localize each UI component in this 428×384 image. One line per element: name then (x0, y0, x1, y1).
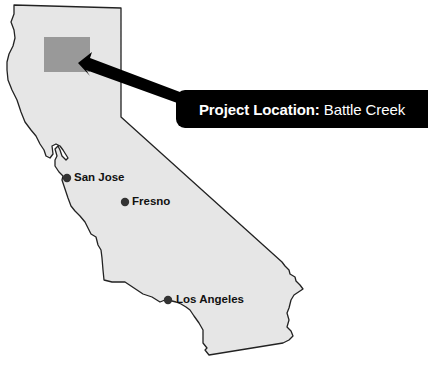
project-location-callout: Project Location: Battle Creek (176, 90, 428, 128)
callout-value: Battle Creek (324, 101, 405, 118)
city-label-fresno: Fresno (132, 195, 170, 207)
city-dot-san-jose[interactable] (63, 174, 71, 182)
city-dot-los-angeles[interactable] (164, 296, 172, 304)
city-label-los-angeles: Los Angeles (176, 293, 244, 305)
city-dot-fresno[interactable] (121, 198, 129, 206)
city-label-san-jose: San Jose (74, 171, 125, 183)
callout-label: Project Location: (199, 101, 320, 118)
california-map (0, 0, 428, 384)
